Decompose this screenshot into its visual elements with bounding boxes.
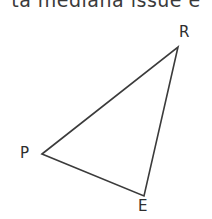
triangle-shape	[42, 47, 178, 196]
vertex-label-P: P	[20, 146, 29, 161]
figure-canvas: ta mediana issue e R P E	[0, 0, 212, 219]
vertex-label-E: E	[138, 199, 147, 214]
vertex-label-R: R	[179, 25, 189, 40]
